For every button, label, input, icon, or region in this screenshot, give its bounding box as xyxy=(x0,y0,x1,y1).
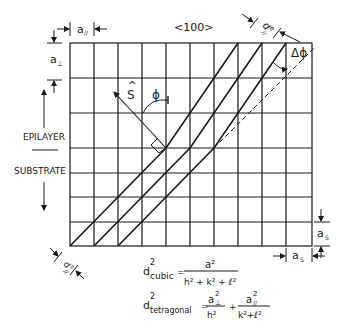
tetragonal-lhs: d xyxy=(143,299,150,312)
term2-den: k²+ℓ² xyxy=(238,310,262,320)
plane-3 xyxy=(118,43,286,246)
lattice-diagram: Δϕ S ^ ϕ <100> a // a ⊥ EPILAYER SUBSTRA… xyxy=(0,0,341,327)
direction-label: <100> xyxy=(174,21,213,34)
a-s-horizontal-sub: S xyxy=(300,256,304,263)
cubic-lhs: d xyxy=(143,265,150,278)
a-perp-sub: ⊥ xyxy=(57,60,63,68)
plane-1 xyxy=(70,43,238,246)
cubic-denominator: h² + k² + ℓ² xyxy=(184,277,236,287)
tetragonal-lhs-sup: 2 xyxy=(150,292,155,301)
d-sub-label-group: d s // xyxy=(59,258,78,276)
phi-label: ϕ xyxy=(152,88,160,102)
a-s-horizontal-dimension xyxy=(273,248,325,262)
a-parallel-label: a xyxy=(77,23,84,36)
cubic-equals: = xyxy=(177,267,185,277)
cubic-lhs-sub: cubic xyxy=(150,271,174,281)
plane-2 xyxy=(94,43,262,246)
lattice-planes xyxy=(70,43,286,246)
delta-phi-arc xyxy=(273,62,287,69)
term1-num-sup: 2 xyxy=(215,290,219,298)
d-epi-label-group: d e // xyxy=(258,20,277,38)
s-hat-accent: ^ xyxy=(128,80,136,91)
a-perp-label: a xyxy=(50,53,57,66)
term2-num: a xyxy=(246,294,252,305)
a-s-vertical-sub: S xyxy=(325,234,329,241)
a-s-horizontal-label: a xyxy=(292,249,299,262)
tetragonal-lhs-sub: tetragonal xyxy=(150,306,192,315)
substrate-plane-extension xyxy=(214,48,314,148)
equation-cubic: d 2 cubic = a² h² + k² + ℓ² xyxy=(143,258,238,287)
term1-num: a xyxy=(208,294,214,305)
cubic-lhs-sup: 2 xyxy=(150,258,155,267)
epilayer-label: EPILAYER xyxy=(23,132,65,142)
lattice-grid xyxy=(70,43,312,246)
cubic-numerator: a² xyxy=(205,259,215,270)
term2-num-sub: // xyxy=(253,299,258,306)
a-s-vertical-label: a xyxy=(317,227,324,240)
substrate-label: SUBSTRATE xyxy=(14,166,66,176)
delta-phi-label: Δϕ xyxy=(291,46,307,60)
a-parallel-sub: // xyxy=(84,29,89,36)
term1-den: h² xyxy=(207,310,217,320)
d-epi-sub: // xyxy=(261,29,270,37)
tetragonal-plus: + xyxy=(229,302,237,312)
equation-tetragonal: d 2 tetragonal = a 2 ⊥ h² + a 2 // k²+ℓ² xyxy=(143,290,270,320)
term2-num-sup: 2 xyxy=(253,290,257,298)
